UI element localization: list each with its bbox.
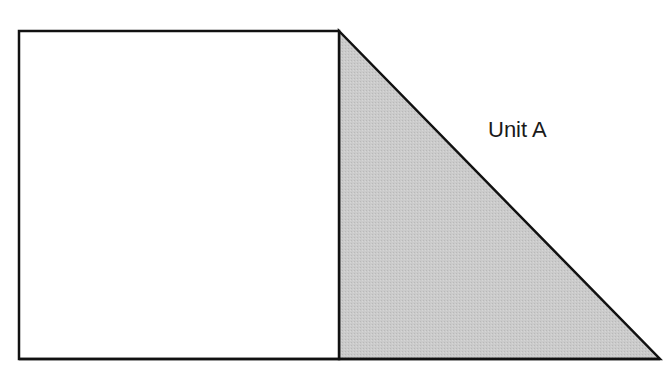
shaded-triangle — [339, 31, 660, 359]
unit-a-label: Unit A — [488, 117, 547, 142]
square — [19, 31, 339, 359]
diagram-canvas: Unit A — [0, 0, 668, 376]
